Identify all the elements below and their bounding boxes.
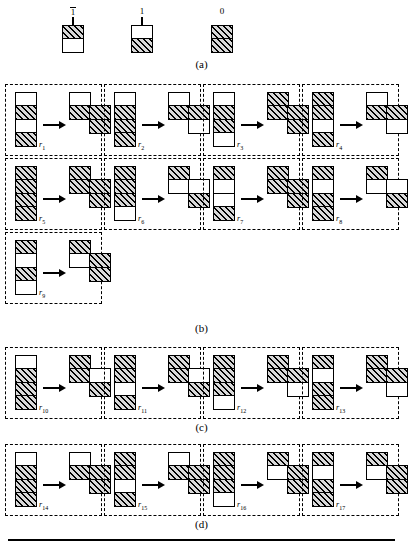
rule-inner: r1 [6, 85, 101, 155]
rule-box-r1: r1 [5, 84, 102, 156]
rule-box-r11: r11 [104, 347, 201, 419]
caption-b: (b) [0, 322, 403, 334]
hatched-cell [211, 38, 233, 53]
symbol-one-label: 1 [140, 7, 145, 17]
rhs-left-column-r3 [267, 92, 289, 119]
arrow-icon [43, 195, 68, 203]
arrow-icon [241, 384, 266, 392]
rule-box-r15: r15 [104, 444, 201, 516]
lhs-column-r7 [213, 166, 235, 220]
arrow-icon [43, 269, 68, 277]
hatched-cell [114, 132, 136, 147]
lhs-column-r2 [114, 92, 136, 146]
rule-label-r15: r15 [138, 500, 147, 511]
rule-box-r12: r12 [203, 347, 300, 419]
rule-label-r13: r13 [336, 403, 345, 414]
lhs-column-r8 [312, 166, 334, 220]
rule-box-r17: r17 [302, 444, 399, 516]
rhs-group-r4 [366, 92, 411, 142]
rule-label-index: 7 [240, 219, 243, 225]
white-cell [15, 280, 37, 295]
lhs-column-r3 [213, 92, 235, 146]
lhs-column-r9 [15, 240, 37, 294]
arrow-head [257, 195, 264, 203]
hatched-cell [15, 395, 37, 410]
rule-label-r10: r10 [39, 403, 48, 414]
rule-inner: r14 [6, 445, 101, 515]
symbol-one-column [131, 25, 153, 52]
rhs-left-column-r12 [267, 355, 289, 382]
hatched-cell [131, 38, 153, 53]
symbol-zero: 0 [211, 7, 233, 52]
rule-box-r8: r8 [302, 158, 399, 230]
rhs-right-column-r17 [386, 465, 408, 492]
lhs-column-r16 [213, 452, 235, 506]
white-cell [386, 382, 408, 397]
hatched-cell [213, 206, 235, 221]
white-cell [213, 395, 235, 410]
lhs-column-r15 [114, 452, 136, 506]
rule-inner: r17 [303, 445, 398, 515]
rhs-left-column-r1 [69, 92, 91, 119]
hatched-cell [366, 368, 388, 383]
arrow-icon [43, 121, 68, 129]
arrow-icon [241, 121, 266, 129]
arrow-head [356, 384, 363, 392]
hatched-cell [89, 267, 111, 282]
hatched-cell [366, 105, 388, 120]
arrow-head [257, 384, 264, 392]
rule-inner: r16 [204, 445, 299, 515]
rhs-right-column-r9 [89, 253, 111, 280]
rule-label-index: 3 [240, 145, 243, 151]
rule-box-r6: r6 [104, 158, 201, 230]
rule-label-r6: r6 [138, 214, 144, 225]
rule-inner: r8 [303, 159, 398, 229]
arrow-head [59, 195, 66, 203]
hatched-cell [15, 492, 37, 507]
arrow-head [59, 269, 66, 277]
rule-inner: r9 [6, 233, 101, 303]
rule-inner: r4 [303, 85, 398, 155]
rule-inner: r5 [6, 159, 101, 229]
hatched-cell [168, 368, 190, 383]
rule-label-r14: r14 [39, 500, 48, 511]
rule-label-r17: r17 [336, 500, 345, 511]
arrow-head [257, 121, 264, 129]
overbar: 1 [70, 7, 77, 17]
arrow-head [59, 384, 66, 392]
rule-label-index: 17 [339, 505, 345, 511]
rhs-right-column-r13 [386, 368, 408, 395]
arrow-icon [340, 121, 365, 129]
rule-box-r2: r2 [104, 84, 201, 156]
lhs-column-r17 [312, 452, 334, 506]
rule-label-r7: r7 [237, 214, 243, 225]
rhs-left-column-r8 [366, 166, 388, 193]
rhs-group-r9 [69, 240, 114, 290]
rule-label-r12: r12 [237, 403, 246, 414]
arrow-head [59, 481, 66, 489]
rule-inner: r13 [303, 348, 398, 418]
rule-label-index: 13 [339, 408, 345, 414]
caption-d: (d) [0, 518, 403, 530]
rule-inner: r10 [6, 348, 101, 418]
hatched-cell [15, 206, 37, 221]
arrow-icon [340, 195, 365, 203]
rule-box-r3: r3 [203, 84, 300, 156]
hatched-cell [267, 105, 289, 120]
hatched-cell [69, 105, 91, 120]
rhs-group-r8 [366, 166, 411, 216]
rhs-left-column-r11 [168, 355, 190, 382]
arrow-icon [142, 384, 167, 392]
hatched-cell [114, 395, 136, 410]
rhs-left-column-r6 [168, 166, 190, 193]
white-cell [386, 119, 408, 134]
rule-inner: r3 [204, 85, 299, 155]
hatched-cell [168, 105, 190, 120]
hatched-cell [69, 465, 91, 480]
arrow-head [356, 195, 363, 203]
rule-inner: r12 [204, 348, 299, 418]
rule-label-index: 6 [141, 219, 144, 225]
hatched-cell [312, 132, 334, 147]
rule-label-r1: r1 [39, 140, 45, 151]
rhs-left-column-r13 [366, 355, 388, 382]
